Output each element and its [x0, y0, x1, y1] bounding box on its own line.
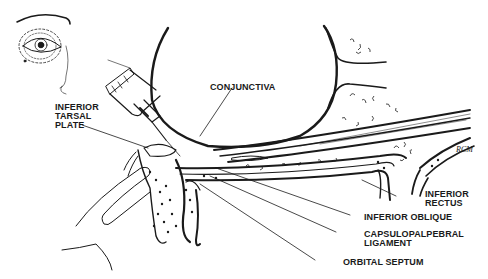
label-inferior-rectus: INFERIOR RECTUS: [425, 190, 469, 208]
label-conjunctiva: CONJUNCTIVA: [210, 83, 275, 92]
label-inferior-tarsal-plate: INFERIOR TARSAL PLATE: [55, 103, 99, 130]
syringe-icon: [106, 60, 180, 156]
artist-signature: RCM: [456, 145, 473, 154]
label-capsulopalpebral-ligament: CAPSULOPALPEBRAL LIGAMENT: [364, 230, 464, 248]
label-inferior-oblique: INFERIOR OBLIQUE: [364, 213, 452, 222]
eye-inset-icon: [17, 15, 70, 94]
label-orbital-septum: ORBITAL SEPTUM: [343, 258, 424, 267]
finger-icon: [62, 167, 150, 270]
